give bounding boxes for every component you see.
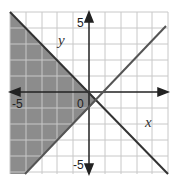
shaded-region [10, 12, 97, 174]
axis-label-x: x [144, 114, 152, 130]
tick-label-y-neg5: -5 [73, 158, 84, 172]
coordinate-plane: -5 0 5 -5 y x [0, 0, 174, 184]
tick-label-y-pos5: 5 [77, 16, 84, 30]
axis-label-y: y [56, 32, 65, 48]
tick-label-origin: 0 [77, 97, 84, 111]
tick-label-x-neg5: -5 [12, 97, 23, 111]
